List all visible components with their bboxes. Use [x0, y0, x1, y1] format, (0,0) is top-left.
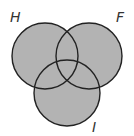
- venn-diagram: H F I: [0, 0, 134, 136]
- circle-fills: [12, 23, 122, 126]
- label-h: H: [10, 9, 21, 25]
- label-f: F: [116, 9, 125, 25]
- label-i: I: [92, 119, 96, 135]
